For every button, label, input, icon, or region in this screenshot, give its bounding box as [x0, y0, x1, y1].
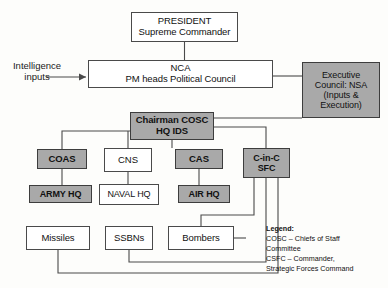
legend-line-csfc-2: Strategic Forces Command: [266, 264, 386, 274]
node-cns: CNS: [104, 148, 152, 172]
org-chart-diagram: Intelligence inputs PRESIDENT Supreme Co…: [0, 0, 388, 288]
node-nca: NCA PM heads Political Council: [88, 60, 273, 88]
node-coas: COAS: [37, 149, 87, 169]
node-bombers: Bombers: [168, 226, 234, 250]
intel-arrowhead: [79, 74, 86, 81]
legend-line-cosc-2: Committee: [266, 244, 386, 254]
node-president: PRESIDENT Supreme Commander: [131, 12, 238, 42]
legend: Legend: COSC – Chiefs of Staff Committee…: [266, 224, 386, 274]
legend-line-csfc-1: CSFC – Commander,: [266, 254, 386, 264]
node-cinc-sfc: C-in-C SFC: [243, 148, 290, 178]
legend-title: Legend:: [266, 224, 386, 234]
legend-line-cosc-1: COSC – Chiefs of Staff: [266, 234, 386, 244]
node-air-hq: AIR HQ: [178, 185, 230, 203]
node-naval-hq: NAVAL HQ: [99, 184, 159, 205]
intelligence-inputs-label: Intelligence inputs: [4, 60, 70, 83]
node-executive-council: Executive Council: NSA (Inputs & Executi…: [302, 62, 380, 118]
node-missiles: Missiles: [26, 226, 90, 250]
connector-cosc-left-bus: [62, 131, 130, 149]
node-cas: CAS: [175, 149, 223, 169]
node-army-hq: ARMY HQ: [29, 185, 92, 203]
node-chairman-cosc: Chairman COSC HQ IDS: [130, 112, 214, 140]
node-ssbns: SSBNs: [105, 226, 153, 250]
connector-cosc-to-cinc: [214, 127, 266, 148]
